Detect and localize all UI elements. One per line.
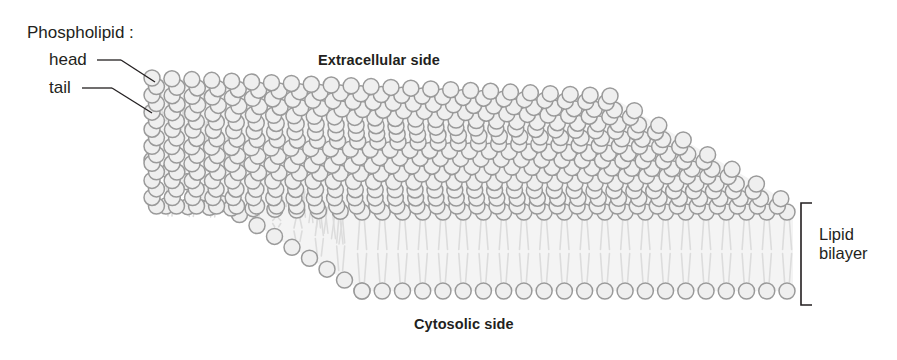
lipid-head <box>184 72 200 88</box>
lipid-head <box>337 272 353 288</box>
lipid-head <box>556 283 572 299</box>
lipid-head <box>394 283 410 299</box>
lipid-head <box>374 283 390 299</box>
lipid-head <box>363 79 379 95</box>
lipid-head <box>224 73 240 89</box>
lipid-head <box>463 83 479 99</box>
lipid-head <box>718 283 734 299</box>
lipid-head <box>303 76 319 92</box>
lipid-head <box>651 117 667 133</box>
lipid-head <box>675 132 691 148</box>
lipid-head <box>455 283 471 299</box>
bracket-shape <box>801 203 812 305</box>
lipid-head <box>577 283 593 299</box>
lipid-bilayer-bracket <box>801 203 812 305</box>
cytosolic-side-label: Cytosolic side <box>414 316 514 333</box>
lipid-bilayer-label: Lipidbilayer <box>819 225 868 264</box>
lipid-head <box>144 70 160 86</box>
lipid-head <box>779 283 795 299</box>
head-label: head <box>49 50 87 70</box>
lipid-head <box>536 283 552 299</box>
lipid-head <box>516 283 532 299</box>
lipid-head <box>249 218 265 234</box>
lipid-head <box>443 82 459 98</box>
lipid-head <box>354 283 370 299</box>
lipid-head <box>602 88 618 104</box>
upper-leaflet-surface-heads <box>144 70 789 214</box>
lipid-head <box>759 283 775 299</box>
lipid-head <box>302 250 318 266</box>
phospholipid-label: Phospholipid : <box>27 23 134 43</box>
lipid-head <box>435 283 451 299</box>
leader-lines <box>82 60 155 113</box>
lipid-head <box>597 283 613 299</box>
lipid-head <box>164 71 180 87</box>
lipid-head <box>562 86 578 102</box>
lipid-head <box>700 147 716 163</box>
lipid-head <box>204 72 220 88</box>
lipid-head <box>263 75 279 91</box>
tail-label: tail <box>49 78 71 98</box>
lipid-bilayer-line-1: Lipid <box>819 225 854 243</box>
lipid-head <box>678 283 694 299</box>
lipid-head <box>415 283 431 299</box>
lipid-head <box>403 80 419 96</box>
lipid-head <box>626 103 642 119</box>
lipid-head <box>383 79 399 95</box>
lipid-head <box>522 85 538 101</box>
lipid-head <box>423 81 439 97</box>
lipid-head <box>283 75 299 91</box>
lipid-head <box>617 283 633 299</box>
lipid-head <box>637 283 653 299</box>
lipid-head <box>582 87 598 103</box>
extracellular-side-label: Extracellular side <box>318 52 440 69</box>
lipid-head <box>502 84 518 100</box>
bilayer-diagram <box>0 0 897 360</box>
lipid-head <box>323 77 339 93</box>
lipid-head <box>658 283 674 299</box>
lipid-head <box>739 283 755 299</box>
lipid-head <box>319 261 335 277</box>
lipid-head <box>542 86 558 102</box>
lipid-head <box>267 228 283 244</box>
lipid-head <box>773 191 789 207</box>
lipid-head <box>475 283 491 299</box>
lipid-head <box>748 176 764 192</box>
lipid-head <box>496 283 512 299</box>
lipid-head <box>483 83 499 99</box>
lipid-bilayer-line-2: bilayer <box>819 244 868 262</box>
lipid-head <box>244 74 260 90</box>
lipid-head <box>724 161 740 177</box>
lipid-head <box>284 239 300 255</box>
lipid-head <box>698 283 714 299</box>
lipid-head <box>343 78 359 94</box>
